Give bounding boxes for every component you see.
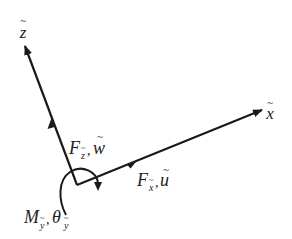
x-axis-label: ~ x [265,96,274,123]
svg-text:~: ~ [81,144,86,153]
svg-text:M: M [23,207,40,227]
moment-arrowhead-icon [94,182,102,191]
svg-text:,: , [87,143,91,158]
svg-text:F: F [68,138,81,158]
svg-text:x: x [265,104,274,123]
svg-text:,: , [46,212,50,227]
svg-text:w: w [93,138,105,158]
svg-text:,: , [155,175,159,190]
x-force-label: F x ~ , ~ u [136,163,169,193]
svg-text:~: ~ [149,176,154,185]
svg-text:z: z [19,23,27,42]
z-force-label: F z ~ , ~ w [68,130,105,161]
z-axis-label: ~ z [19,14,27,42]
moment-label: M y ~ , θ y ~ [23,207,69,231]
svg-text:~: ~ [40,214,45,223]
svg-text:~: ~ [64,214,69,223]
svg-text:u: u [160,170,169,190]
svg-text:F: F [136,170,149,190]
moment-arc-icon [60,169,98,215]
moment-arc [60,169,102,215]
frame-diagram: ~ z ~ x F z ~ , ~ w F x ~ , ~ u M y ~ , … [0,0,292,239]
z-axis-arrow-icon [25,46,77,185]
z-axis [25,46,77,185]
svg-text:θ: θ [52,207,61,227]
